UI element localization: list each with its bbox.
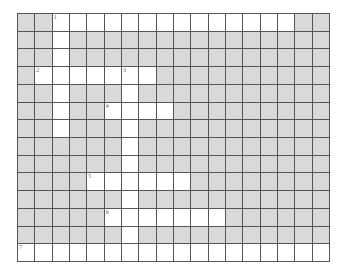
blocked-cell [18, 156, 35, 174]
blocked-cell [191, 156, 208, 174]
blocked-cell [278, 67, 295, 85]
crossword-cell[interactable] [139, 173, 156, 191]
crossword-cell[interactable] [122, 14, 139, 32]
blocked-cell [70, 103, 87, 121]
crossword-cell[interactable] [191, 244, 208, 262]
crossword-cell[interactable] [105, 67, 122, 85]
crossword-cell[interactable] [53, 85, 70, 103]
crossword-cell[interactable] [87, 244, 104, 262]
blocked-cell [243, 49, 260, 67]
crossword-cell[interactable] [174, 173, 191, 191]
crossword-cell[interactable] [105, 14, 122, 32]
blocked-cell [157, 85, 174, 103]
crossword-cell[interactable] [209, 244, 226, 262]
crossword-cell[interactable] [139, 209, 156, 227]
crossword-cell[interactable] [105, 244, 122, 262]
crossword-cell[interactable] [139, 244, 156, 262]
blocked-cell [18, 103, 35, 121]
blocked-cell [261, 156, 278, 174]
crossword-cell[interactable]: 7 [18, 244, 35, 262]
blocked-cell [174, 138, 191, 156]
crossword-cell[interactable]: 6 [105, 209, 122, 227]
crossword-cell[interactable] [139, 14, 156, 32]
crossword-cell[interactable] [157, 244, 174, 262]
crossword-cell[interactable]: 2 [35, 67, 52, 85]
blocked-cell [243, 138, 260, 156]
crossword-cell[interactable] [174, 209, 191, 227]
crossword-cell[interactable] [157, 173, 174, 191]
blocked-cell [105, 49, 122, 67]
crossword-cell[interactable] [243, 244, 260, 262]
crossword-cell[interactable] [226, 14, 243, 32]
blocked-cell [139, 49, 156, 67]
crossword-cell[interactable]: 3 [122, 67, 139, 85]
crossword-cell[interactable] [53, 32, 70, 50]
crossword-cell[interactable] [70, 244, 87, 262]
crossword-cell[interactable] [139, 67, 156, 85]
blocked-cell [18, 209, 35, 227]
blocked-cell [191, 191, 208, 209]
blocked-cell [53, 209, 70, 227]
blocked-cell [70, 85, 87, 103]
crossword-cell[interactable] [261, 244, 278, 262]
crossword-cell[interactable] [53, 67, 70, 85]
crossword-cell[interactable] [191, 209, 208, 227]
crossword-cell[interactable]: 4 [105, 103, 122, 121]
crossword-cell[interactable] [261, 14, 278, 32]
crossword-cell[interactable] [122, 227, 139, 245]
clue-number: 1 [54, 14, 57, 21]
crossword-cell[interactable] [157, 14, 174, 32]
crossword-cell[interactable] [174, 14, 191, 32]
blocked-cell [226, 191, 243, 209]
blocked-cell [87, 120, 104, 138]
blocked-cell [295, 49, 312, 67]
crossword-cell[interactable] [139, 103, 156, 121]
crossword-cell[interactable] [122, 244, 139, 262]
crossword-cell[interactable] [122, 103, 139, 121]
blocked-cell [174, 120, 191, 138]
blocked-cell [313, 173, 330, 191]
crossword-cell[interactable] [122, 173, 139, 191]
blocked-cell [261, 85, 278, 103]
crossword-cell[interactable] [226, 244, 243, 262]
blocked-cell [35, 49, 52, 67]
blocked-cell [18, 173, 35, 191]
crossword-cell[interactable] [87, 67, 104, 85]
crossword-cell[interactable] [174, 244, 191, 262]
blocked-cell [105, 120, 122, 138]
crossword-cell[interactable] [278, 14, 295, 32]
crossword-cell[interactable] [243, 14, 260, 32]
blocked-cell [139, 191, 156, 209]
crossword-cell[interactable] [157, 103, 174, 121]
crossword-cell[interactable] [122, 209, 139, 227]
crossword-cell[interactable] [157, 209, 174, 227]
crossword-cell[interactable] [53, 49, 70, 67]
crossword-cell[interactable] [53, 244, 70, 262]
crossword-cell[interactable]: 1 [53, 14, 70, 32]
blocked-cell [35, 138, 52, 156]
crossword-cell[interactable] [191, 14, 208, 32]
crossword-cell[interactable] [35, 244, 52, 262]
blocked-cell [226, 67, 243, 85]
crossword-cell[interactable] [295, 244, 312, 262]
clue-number: 6 [106, 209, 109, 216]
crossword-cell[interactable] [70, 67, 87, 85]
crossword-cell[interactable]: 5 [87, 173, 104, 191]
blocked-cell [174, 227, 191, 245]
crossword-cell[interactable] [53, 103, 70, 121]
crossword-cell[interactable] [122, 191, 139, 209]
crossword-cell[interactable] [87, 14, 104, 32]
crossword-cell[interactable] [105, 173, 122, 191]
crossword-cell[interactable] [209, 14, 226, 32]
crossword-cell[interactable] [53, 120, 70, 138]
crossword-cell[interactable] [278, 244, 295, 262]
blocked-cell [278, 103, 295, 121]
crossword-cell[interactable] [122, 85, 139, 103]
crossword-cell[interactable] [122, 120, 139, 138]
crossword-cell[interactable] [70, 14, 87, 32]
crossword-cell[interactable] [209, 209, 226, 227]
crossword-cell[interactable] [313, 244, 330, 262]
crossword-cell[interactable] [122, 156, 139, 174]
blocked-cell [261, 138, 278, 156]
crossword-cell[interactable] [122, 138, 139, 156]
